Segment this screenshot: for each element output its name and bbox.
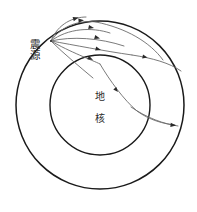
- ray-paths-group: [51, 17, 181, 126]
- core-label-line1: 地: [95, 90, 105, 102]
- hypocenter-label-char2: 源: [30, 49, 41, 61]
- core-boundary-circle: [50, 55, 150, 155]
- seismic-ray-diagram: 震源 地 核: [0, 0, 197, 212]
- arrowhead-icon-7: [142, 55, 148, 60]
- ray-path-7: [51, 41, 93, 78]
- earth-surface-circle: [16, 21, 184, 189]
- ray-path-4: [51, 38, 124, 46]
- ray-path-10-core-refracted: [100, 64, 175, 125]
- arrowhead-icon-9-exit: [170, 123, 176, 128]
- ray-path-9-shallow: [132, 55, 181, 71]
- arrowhead-icon-5: [95, 47, 101, 52]
- ray-path-6: [51, 41, 100, 64]
- diagram-canvas: 震源 地 核: [0, 0, 197, 212]
- arrowhead-icon-8-core: [113, 87, 119, 93]
- core-label-line2: 核: [95, 112, 105, 124]
- hypocenter-point: [50, 40, 52, 42]
- hypocenter-label: 震源: [30, 38, 41, 61]
- ray-arrowheads-group: [73, 16, 177, 128]
- arrowhead-icon-1: [73, 16, 79, 22]
